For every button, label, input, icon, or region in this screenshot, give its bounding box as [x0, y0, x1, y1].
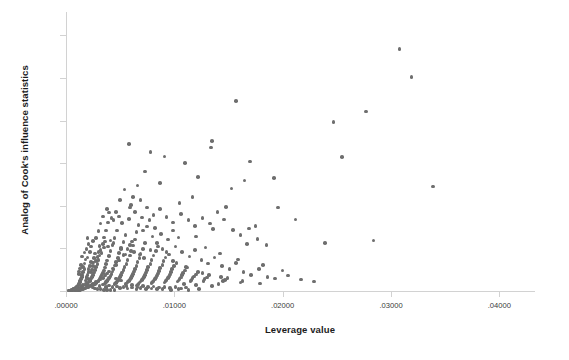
x-tick-label: .01000 [139, 301, 209, 310]
data-point [187, 218, 191, 222]
data-point [272, 176, 276, 180]
data-point [276, 206, 280, 210]
data-point [194, 235, 198, 239]
data-point [81, 265, 85, 269]
data-point [196, 175, 200, 179]
data-point [176, 280, 180, 284]
data-point [114, 277, 118, 281]
data-point [136, 184, 140, 188]
data-point [113, 288, 117, 292]
data-point [159, 232, 163, 236]
y-tick [60, 121, 66, 122]
data-point [83, 251, 87, 255]
data-point [161, 247, 165, 251]
data-point [179, 212, 183, 216]
data-points-layer [67, 12, 535, 291]
data-point [142, 256, 146, 260]
data-point [178, 201, 182, 205]
data-point [197, 287, 201, 291]
data-point [139, 286, 143, 290]
x-tick-label: .03000 [356, 301, 426, 310]
data-point [256, 237, 260, 241]
data-point [96, 255, 100, 259]
data-point [210, 284, 214, 288]
data-point [84, 258, 88, 262]
y-tick [60, 78, 66, 79]
y-tick [60, 248, 66, 249]
data-point [398, 47, 402, 51]
data-point [102, 246, 106, 250]
data-point [222, 218, 226, 222]
data-point [109, 249, 113, 253]
data-point [312, 280, 316, 284]
data-point [143, 170, 147, 174]
data-point [130, 286, 134, 290]
data-point [89, 270, 93, 274]
data-point [117, 215, 121, 219]
data-point [151, 235, 155, 239]
data-point [294, 218, 298, 222]
data-point [242, 270, 246, 274]
data-point [105, 207, 109, 211]
data-point [257, 267, 261, 271]
scatter-chart: Analog of Cook's influence statistics Le… [0, 0, 569, 360]
data-point [107, 254, 111, 258]
data-point [133, 210, 137, 214]
x-tick-label: .00000 [31, 301, 101, 310]
data-point [158, 207, 162, 211]
data-point [149, 248, 153, 252]
data-point [265, 243, 269, 247]
data-point [211, 227, 215, 231]
x-tick [499, 291, 500, 297]
data-point [231, 228, 235, 232]
data-point [127, 217, 131, 221]
data-point [228, 267, 232, 271]
data-point [126, 287, 130, 291]
data-point [193, 224, 197, 228]
data-point [133, 238, 137, 242]
data-point [299, 278, 303, 282]
data-point [189, 279, 193, 283]
y-axis-title: Analog of Cook's influence statistics [14, 5, 36, 295]
data-point [112, 241, 116, 245]
data-point [220, 264, 224, 268]
data-point [245, 242, 249, 246]
data-point [266, 275, 270, 279]
data-point [248, 160, 252, 164]
data-point [122, 240, 126, 244]
data-point [202, 279, 206, 283]
data-point [261, 263, 265, 267]
data-point [249, 273, 253, 277]
data-point [118, 198, 122, 202]
data-point [137, 223, 141, 227]
data-point [148, 218, 152, 222]
data-point [128, 243, 132, 247]
data-point [124, 233, 128, 237]
data-point [206, 262, 210, 266]
x-tick-label: .02000 [248, 301, 318, 310]
data-point [239, 281, 243, 285]
data-point [323, 241, 327, 245]
plot-area [66, 12, 535, 292]
data-point [103, 240, 107, 244]
data-point [101, 215, 105, 219]
data-point [258, 282, 262, 286]
data-point [107, 211, 111, 215]
data-point [239, 233, 243, 237]
data-point [372, 239, 376, 243]
data-point [161, 287, 165, 291]
data-point [166, 238, 170, 242]
data-point [155, 241, 159, 245]
data-point [234, 99, 238, 103]
data-point [180, 250, 184, 254]
data-point [145, 225, 149, 229]
data-point [332, 120, 336, 124]
data-point [204, 246, 208, 250]
data-point [128, 254, 132, 258]
data-point [273, 277, 277, 281]
data-point [145, 206, 149, 210]
data-point [158, 181, 162, 185]
data-point [129, 203, 133, 207]
data-point [208, 222, 212, 226]
data-point [201, 271, 205, 275]
